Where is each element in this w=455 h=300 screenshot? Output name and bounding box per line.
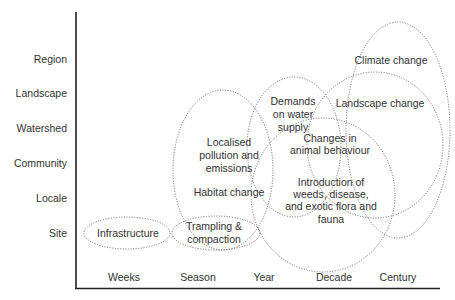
x-axis-labels: Weeks Season Year Decade Century	[0, 0, 455, 300]
x-label-decade: Decade	[316, 271, 352, 283]
x-label-weeks: Weeks	[108, 271, 140, 283]
x-label-year: Year	[253, 271, 275, 283]
x-label-century: Century	[380, 271, 418, 283]
x-label-season: Season	[180, 271, 216, 283]
